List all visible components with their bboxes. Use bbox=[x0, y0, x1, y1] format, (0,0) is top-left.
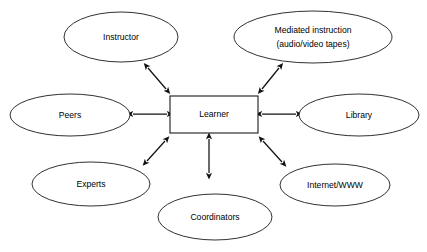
node-experts[interactable]: Experts bbox=[32, 162, 150, 206]
node-mediated-instruction-ellipse[interactable] bbox=[234, 11, 392, 63]
node-library[interactable]: Library bbox=[299, 94, 419, 136]
node-learner-label: Learner bbox=[199, 109, 229, 119]
connector-internet-www-learner bbox=[263, 141, 282, 162]
node-mediated-instruction-label-line1: Mediated instruction bbox=[275, 25, 352, 35]
connector-mediated-instruction-learner bbox=[262, 68, 279, 89]
node-internet-www[interactable]: Internet/WWW bbox=[280, 164, 390, 206]
node-learner[interactable]: Learner bbox=[170, 96, 258, 133]
diagram-svg: Instructor Mediated instruction (audio/v… bbox=[0, 0, 427, 252]
node-peers-label: Peers bbox=[59, 110, 81, 120]
node-coordinators[interactable]: Coordinators bbox=[158, 194, 272, 240]
node-mediated-instruction[interactable]: Mediated instruction (audio/video tapes) bbox=[234, 11, 392, 63]
node-mediated-instruction-label-line2: (audio/video tapes) bbox=[276, 39, 349, 49]
node-experts-label: Experts bbox=[76, 179, 105, 189]
node-instructor-label: Instructor bbox=[103, 32, 139, 42]
node-library-label: Library bbox=[346, 110, 373, 120]
connector-instructor-learner bbox=[148, 68, 166, 89]
node-instructor[interactable]: Instructor bbox=[64, 12, 178, 62]
diagram-canvas: Instructor Mediated instruction (audio/v… bbox=[0, 0, 427, 252]
connector-experts-learner bbox=[147, 141, 165, 161]
node-peers[interactable]: Peers bbox=[10, 94, 130, 136]
node-coordinators-label: Coordinators bbox=[190, 212, 239, 222]
node-internet-www-label: Internet/WWW bbox=[307, 180, 364, 190]
